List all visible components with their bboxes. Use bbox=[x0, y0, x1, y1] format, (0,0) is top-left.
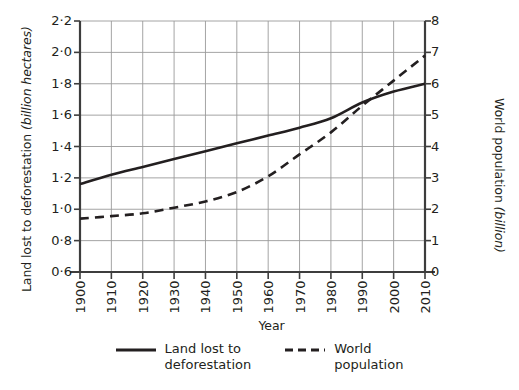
y-axis-right-tick-label: 3 bbox=[431, 171, 467, 184]
y-axis-left-tick-label: 2·2 bbox=[36, 14, 72, 27]
chart-figure: Land lost to deforestation (billion hect… bbox=[0, 0, 519, 390]
legend-entry: Land lost todeforestation bbox=[116, 341, 252, 374]
legend-swatch-solid bbox=[116, 343, 156, 357]
y-axis-right-tick-label: 6 bbox=[431, 77, 467, 90]
x-axis-tick-label: 1910 bbox=[105, 268, 118, 314]
y-axis-left-tick-label: 1·8 bbox=[36, 77, 72, 90]
y-axis-right-tick-label: 2 bbox=[431, 202, 467, 215]
series-line-world-population bbox=[80, 56, 425, 219]
x-axis-tick-label: 1970 bbox=[293, 268, 306, 314]
gridlines bbox=[80, 21, 425, 272]
x-axis-tick-label: 1950 bbox=[230, 268, 243, 314]
chart-legend: Land lost todeforestationWorldpopulation bbox=[0, 341, 519, 374]
y-axis-left-tick-label: 1·2 bbox=[36, 171, 72, 184]
x-axis-tick-label: 1920 bbox=[136, 268, 149, 314]
data-series bbox=[80, 56, 425, 219]
legend-swatch-dashed bbox=[285, 343, 325, 357]
y-axis-left-tick-label: 2·0 bbox=[36, 45, 72, 58]
y-axis-right-tick-label: 5 bbox=[431, 108, 467, 121]
y-axis-right-tick-label: 7 bbox=[431, 45, 467, 58]
x-axis-tick-label: 1980 bbox=[324, 268, 337, 314]
series-line-land-lost-to-deforestation bbox=[80, 84, 425, 184]
x-axis-tick-label: 1900 bbox=[74, 268, 87, 314]
y-axis-left-tick-label: 1·4 bbox=[36, 140, 72, 153]
x-axis-tick-label: 1930 bbox=[168, 268, 181, 314]
y-axis-right-tick-label: 1 bbox=[431, 234, 467, 247]
y-axis-right-tick-label: 8 bbox=[431, 14, 467, 27]
y-axis-left-tick-label: 0·8 bbox=[36, 234, 72, 247]
y-axis-left-tick-label: 0·6 bbox=[36, 265, 72, 278]
legend-label: Land lost todeforestation bbox=[165, 341, 252, 374]
legend-label: Worldpopulation bbox=[334, 341, 403, 374]
x-axis-tick-label: 1990 bbox=[356, 268, 369, 314]
x-axis-tick-label: 1940 bbox=[199, 268, 212, 314]
x-axis-tick-label: 1960 bbox=[262, 268, 275, 314]
y-axis-right-tick-label: 4 bbox=[431, 140, 467, 153]
legend-entry: Worldpopulation bbox=[285, 341, 403, 374]
y-axis-right-tick-label: 0 bbox=[431, 265, 467, 278]
x-axis-tick-label: 2010 bbox=[419, 268, 432, 314]
y-axis-left-tick-label: 1·0 bbox=[36, 202, 72, 215]
x-axis-tick-label: 2000 bbox=[387, 268, 400, 314]
plot-area bbox=[0, 0, 519, 390]
y-axis-left-tick-label: 1·6 bbox=[36, 108, 72, 121]
